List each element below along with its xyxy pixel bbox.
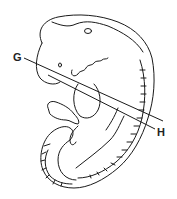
tail-segments (41, 144, 72, 186)
embryo-drawing (0, 0, 177, 199)
section-line-h (48, 75, 155, 129)
somites (90, 70, 146, 178)
label-h: H (157, 127, 165, 138)
brain-line (52, 22, 143, 52)
heart (74, 84, 100, 118)
gut-line-2 (106, 108, 118, 130)
embryo-diagram: G H (0, 0, 177, 199)
gut-line (76, 116, 124, 168)
body-outline (40, 15, 154, 188)
head-outline (36, 43, 60, 84)
otic-vesicle (85, 29, 92, 34)
label-g: G (13, 52, 22, 63)
eye (59, 63, 62, 67)
pharyngeal-arches (71, 58, 108, 76)
